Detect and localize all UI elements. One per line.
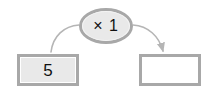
connector-input-to-operation [51, 25, 79, 52]
operation-bubble[interactable]: × 1 [79, 8, 133, 44]
output-box-inner-highlight [142, 57, 198, 83]
function-machine-diagram: 5 × 1 [0, 0, 208, 92]
input-value-text: 5 [43, 62, 52, 79]
input-value-box[interactable]: 5 [17, 54, 79, 86]
output-value-box[interactable] [139, 54, 201, 86]
operation-label: × 1 [93, 18, 119, 34]
connector-operation-to-output [133, 25, 163, 51]
